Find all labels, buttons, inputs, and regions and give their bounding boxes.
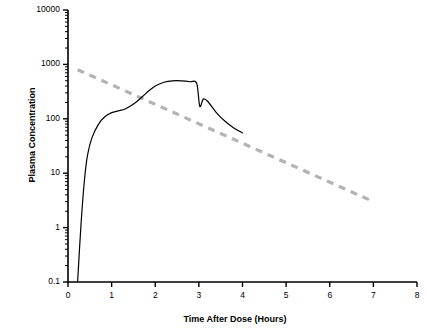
y-tick-label: 100	[46, 113, 60, 123]
series-line-dashed	[78, 70, 374, 202]
series-line-solid	[78, 81, 243, 282]
y-tick-label: 10	[51, 167, 60, 177]
plot-area	[0, 0, 427, 330]
y-tick-label: 1000	[41, 58, 60, 68]
x-tick-label: 8	[407, 290, 427, 300]
y-axis-title: Plasma Concentration	[27, 55, 37, 215]
y-tick-label: 1	[55, 222, 60, 232]
x-tick-label: 5	[276, 290, 296, 300]
x-tick-label: 3	[189, 290, 209, 300]
x-tick-label: 2	[145, 290, 165, 300]
x-tick-label: 7	[363, 290, 383, 300]
chart-container: Plasma Concentration Time After Dose (Ho…	[0, 0, 427, 330]
x-axis-title: Time After Dose (Hours)	[60, 314, 410, 324]
x-tick-label: 4	[233, 290, 253, 300]
x-tick-label: 1	[102, 290, 122, 300]
y-tick-label: 10000	[36, 4, 60, 14]
y-tick-label: 0.1	[48, 276, 60, 286]
x-tick-label: 0	[58, 290, 78, 300]
x-tick-label: 6	[320, 290, 340, 300]
